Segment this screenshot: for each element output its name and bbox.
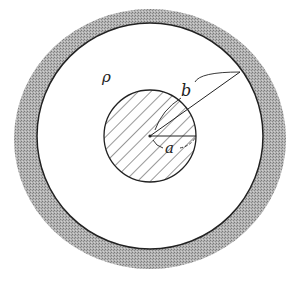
label-b: b bbox=[181, 81, 191, 100]
diagram-canvas: ρ b a bbox=[0, 0, 296, 284]
label-a: a bbox=[165, 139, 174, 157]
label-rho: ρ bbox=[101, 68, 111, 86]
